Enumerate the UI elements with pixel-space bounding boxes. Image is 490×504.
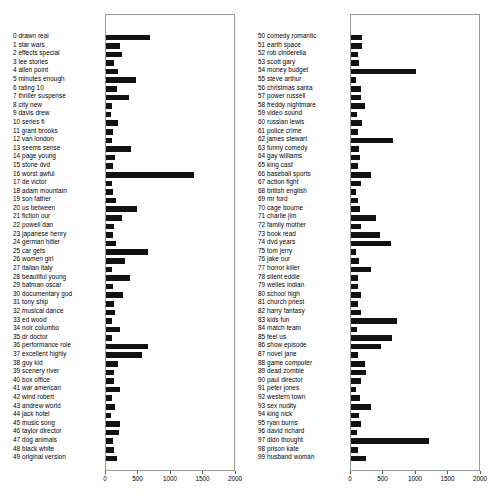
bar	[106, 249, 148, 255]
bar-row	[106, 239, 234, 248]
bar-row	[106, 291, 234, 300]
bar-row	[106, 128, 234, 137]
category-label: 15 stone dvd	[0, 161, 98, 170]
bar	[106, 421, 120, 427]
bar	[106, 344, 148, 350]
category-label: 67 action fight	[245, 178, 343, 187]
category-label: 50 comedy romantic	[245, 32, 343, 41]
bar	[351, 413, 359, 419]
bar-row	[351, 59, 479, 68]
bar	[106, 146, 131, 152]
bar-row	[351, 385, 479, 394]
bar-row	[351, 248, 479, 257]
category-label: 69 mr ford	[245, 195, 343, 204]
category-label: 80 school high	[245, 290, 343, 299]
bar	[351, 284, 358, 290]
category-label: 14 page young	[0, 152, 98, 161]
bar-row	[106, 136, 234, 145]
bar-row	[351, 67, 479, 76]
x-axis-tick	[202, 471, 203, 474]
bar	[106, 352, 142, 358]
bar-row	[106, 437, 234, 446]
bar	[106, 430, 119, 436]
bar	[106, 370, 114, 376]
bar	[106, 43, 120, 49]
x-axis-tick-label: 0	[348, 475, 352, 482]
bar-row	[351, 299, 479, 308]
bar-row	[106, 196, 234, 205]
category-label: 83 kids fun	[245, 316, 343, 325]
category-label: 2 effects special	[0, 49, 98, 58]
category-label: 24 german hitler	[0, 238, 98, 247]
bar-row	[106, 325, 234, 334]
bar-row	[351, 171, 479, 180]
bar-row	[106, 265, 234, 274]
category-label: 18 adam mountain	[0, 187, 98, 196]
category-label: 65 king cast	[245, 161, 343, 170]
bar-row	[351, 308, 479, 317]
bar	[106, 301, 114, 307]
bar-row	[351, 145, 479, 154]
bar	[351, 206, 360, 212]
bar-row	[106, 42, 234, 51]
category-label: 29 batman oscar	[0, 281, 98, 290]
category-label: 55 steve arthur	[245, 75, 343, 84]
category-label: 54 money budget	[245, 66, 343, 75]
bar	[106, 378, 114, 384]
chart-panel-left: 0 drawn real1 star wars2 effects special…	[0, 0, 245, 504]
bar	[351, 215, 376, 221]
category-label: 43 andrew world	[0, 402, 98, 411]
bar	[351, 181, 361, 187]
bar-row	[351, 360, 479, 369]
category-label: 95 ryan burns	[245, 419, 343, 428]
category-label-column-right: 50 comedy romantic51 earth space52 rob c…	[245, 32, 343, 462]
bar-row	[106, 179, 234, 188]
bar-row	[106, 360, 234, 369]
bar	[106, 112, 111, 118]
x-axis-tick	[137, 471, 138, 474]
category-label: 19 son father	[0, 195, 98, 204]
bar	[106, 77, 136, 83]
bar	[351, 232, 380, 238]
category-label: 71 charlie jim	[245, 212, 343, 221]
bar-row	[351, 136, 479, 145]
x-axis-tick	[350, 471, 351, 474]
bar	[106, 275, 130, 281]
bar-row	[106, 110, 234, 119]
bar-row	[106, 67, 234, 76]
category-label: 0 drawn real	[0, 32, 98, 41]
category-label: 7 thriller suspense	[0, 92, 98, 101]
bar-row	[106, 188, 234, 197]
bar-row	[351, 188, 479, 197]
bar	[351, 224, 361, 230]
category-label: 26 women girl	[0, 255, 98, 264]
bar	[351, 310, 361, 316]
category-label: 13 seems sense	[0, 144, 98, 153]
x-axis-tick	[415, 471, 416, 474]
bar	[351, 361, 365, 367]
category-label: 75 tom jerry	[245, 247, 343, 256]
bar	[351, 249, 356, 255]
bar	[106, 86, 117, 92]
category-label: 40 box office	[0, 376, 98, 385]
category-label: 68 british english	[245, 187, 343, 196]
bar	[106, 206, 137, 212]
bar-row	[351, 428, 479, 437]
bar-row	[351, 205, 479, 214]
bar	[106, 224, 114, 230]
bar	[351, 146, 359, 152]
category-label: 6 rating 10	[0, 84, 98, 93]
bar	[106, 95, 129, 101]
bar-row	[106, 274, 234, 283]
bar	[106, 310, 115, 316]
category-label: 34 noir columbo	[0, 324, 98, 333]
x-axis-right: 0500100015002000	[350, 471, 480, 497]
bar	[351, 60, 359, 66]
bar-row	[351, 128, 479, 137]
bar-row	[351, 85, 479, 94]
bar-row	[106, 334, 234, 343]
bar-row	[351, 110, 479, 119]
bar	[351, 189, 356, 195]
x-axis-tick-label: 0	[103, 475, 107, 482]
bar	[106, 292, 123, 298]
